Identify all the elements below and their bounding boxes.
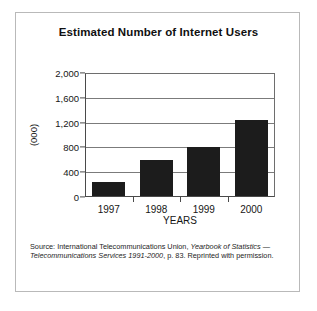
- y-tick-label: 2,000: [55, 68, 79, 79]
- source-middle: —: [261, 242, 270, 251]
- source-suffix: , p. 83. Reprinted with permission.: [163, 251, 273, 260]
- y-tick-mark: [80, 97, 85, 98]
- figure-container: Estimated Number of Internet Users (000)…: [15, 12, 300, 292]
- x-tick-label-1998: 1998: [145, 204, 167, 215]
- gridline: [85, 98, 275, 99]
- source-italic-title-1: Yearbook of Statistics: [191, 242, 261, 251]
- bar-2000: [235, 120, 268, 198]
- plot-area: 04008001,2001,6002,000 1997199819992000: [85, 73, 275, 197]
- x-tick-mark: [180, 197, 181, 202]
- source-italic-title-2: Telecommunications Services 1991-2000: [30, 251, 163, 260]
- x-tick-label-1999: 1999: [193, 204, 215, 215]
- x-tick-label-2000: 2000: [240, 204, 262, 215]
- y-axis-label: (000): [28, 124, 39, 146]
- x-tick-mark: [228, 197, 229, 202]
- y-tick-label: 0: [74, 192, 79, 203]
- y-tick-label: 1,200: [55, 117, 79, 128]
- y-tick-mark: [80, 172, 85, 173]
- y-tick-mark: [80, 196, 85, 197]
- bar-1998: [140, 160, 173, 197]
- chart-title: Estimated Number of Internet Users: [16, 26, 301, 38]
- y-tick-label: 1,600: [55, 92, 79, 103]
- x-tick-mark: [133, 197, 134, 202]
- x-tick-label-1997: 1997: [98, 204, 120, 215]
- y-tick-mark: [80, 122, 85, 123]
- y-tick-mark: [80, 72, 85, 73]
- bar-1997: [92, 182, 125, 198]
- x-axis-label: YEARS: [85, 215, 275, 226]
- y-tick-label: 800: [63, 142, 79, 153]
- y-tick-label: 400: [63, 167, 79, 178]
- source-note: Source: International Telecommunications…: [30, 242, 288, 261]
- bar-1999: [187, 147, 220, 197]
- source-prefix: Source: International Telecommunications…: [30, 242, 191, 251]
- y-tick-mark: [80, 147, 85, 148]
